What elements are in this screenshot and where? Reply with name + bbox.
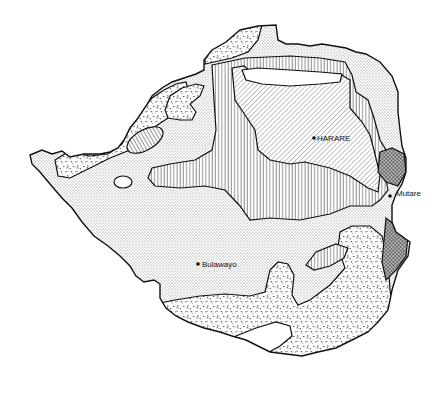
city-label-harare: HARARE <box>317 134 350 143</box>
city-dot-icon <box>196 262 200 266</box>
city-harare: HARARE <box>312 134 350 143</box>
city-bulawayo: Bulawayo <box>196 260 237 269</box>
city-label-mutare: Mutare <box>396 189 421 198</box>
city-dot-icon <box>312 136 316 140</box>
zone-blank-west <box>114 176 132 188</box>
city-label-bulawayo: Bulawayo <box>202 260 237 269</box>
zone-crosshatch-southeast <box>382 218 408 280</box>
zimbabwe-zone-map: HARARE Mutare Bulawayo <box>0 0 445 399</box>
zone-layers <box>0 0 445 399</box>
city-dot-icon <box>388 194 392 198</box>
